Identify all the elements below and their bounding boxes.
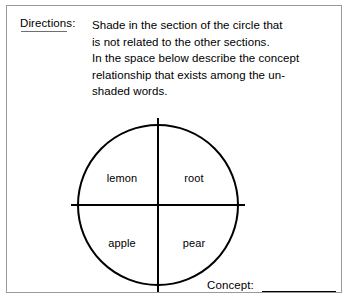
circle-diagram: lemon root apple pear: [71, 118, 246, 293]
worksheet-frame: Directions: Shade in the section of the …: [6, 5, 342, 293]
concept-answer-blank[interactable]: [262, 291, 336, 292]
directions-line-4: relationship that exists among the un-: [92, 67, 332, 84]
directions-label-group: Directions:: [20, 17, 88, 30]
directions-line-3: In the space below describe the concept: [92, 50, 332, 67]
directions-line-5: shaded words.: [92, 83, 332, 100]
concept-answer-row: Concept:: [207, 278, 337, 296]
circle-divider-vertical: [157, 118, 159, 292]
directions-text: Shade in the section of the circle that …: [92, 17, 332, 100]
directions-underline: [21, 31, 67, 32]
directions-label: Directions:: [20, 17, 88, 30]
quadrant-top-left[interactable]: lemon: [89, 172, 155, 184]
quadrant-bottom-left[interactable]: apple: [89, 237, 155, 249]
quadrant-top-right[interactable]: root: [161, 172, 227, 184]
quadrant-bottom-right[interactable]: pear: [161, 237, 227, 249]
directions-line-2: is not related to the other sections.: [92, 34, 332, 51]
directions-line-1: Shade in the section of the circle that: [92, 17, 332, 34]
concept-label: Concept:: [207, 278, 254, 292]
